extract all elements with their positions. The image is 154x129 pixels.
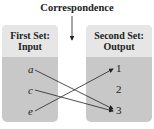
mapping-arrows (0, 0, 154, 129)
arrow-a-to-3 (35, 70, 113, 109)
arrow-c-to-3 (35, 90, 113, 111)
arrow-e-to-1 (35, 69, 113, 111)
